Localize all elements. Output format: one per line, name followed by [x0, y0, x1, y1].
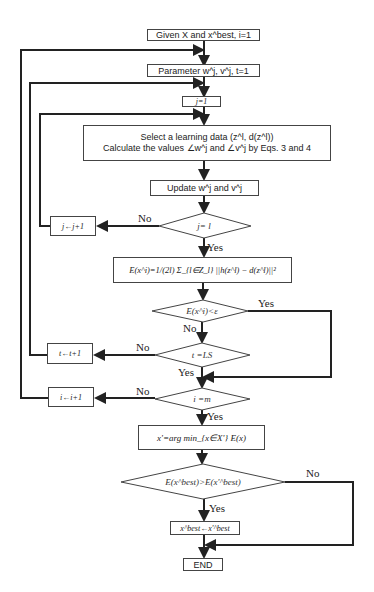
yes-label-t: Yes — [178, 366, 194, 378]
no-label-t: No — [136, 341, 149, 353]
assign-best-box: x^best←x'^best — [170, 521, 240, 535]
argmin-box: x'=arg min_{x∈X'} E(x) — [138, 425, 265, 450]
start-text: Given X and x^best, i=1 — [156, 30, 251, 40]
j-init-text: j=1 — [196, 97, 208, 106]
no-label-j: No — [138, 212, 151, 224]
select-text: Select a learning data (z^l, d(z^l)) — [140, 132, 273, 143]
j-increment-box: j←j+1 — [50, 216, 96, 236]
error-equation-box: E(x^i)=1/(2l) Σ_{l∈Z_l} ||h(z^l) − d(z^l… — [113, 257, 292, 283]
yes-label-j: Yes — [207, 241, 223, 253]
update-text: Update w^j and v^j — [167, 183, 242, 193]
yes-label-error: Yes — [258, 297, 274, 309]
cond-best-text: E(x^best)>E(x'^best) — [165, 477, 241, 487]
select-learning-data-box: Select a learning data (z^l, d(z^l)) Cal… — [83, 125, 331, 161]
cond-j-text: j= l — [197, 221, 210, 231]
calculate-text: Calculate the values ∠w^j and ∠v^j by Eq… — [103, 143, 311, 154]
yes-label-i: Yes — [207, 410, 223, 422]
connector-lines — [0, 0, 374, 592]
yes-label-best: Yes — [209, 502, 225, 514]
start-box: Given X and x^best, i=1 — [147, 29, 260, 41]
end-text: END — [193, 560, 212, 570]
parameter-box: Parameter w^j, v^j, t=1 — [147, 64, 260, 77]
j-increment-text: j←j+1 — [62, 222, 84, 231]
cond-t-text: t =LS — [192, 350, 212, 360]
i-increment-box: i←i+1 — [48, 387, 94, 407]
argmin-text: x'=arg min_{x∈X'} E(x) — [157, 433, 246, 443]
t-increment-text: t←t+1 — [59, 349, 81, 358]
cond-i-text: i =m — [193, 394, 210, 404]
j-init-box: j=1 — [182, 96, 221, 107]
t-increment-box: t←t+1 — [47, 343, 93, 364]
cond-error-text: E(x^i)<ε — [186, 306, 217, 316]
no-label-best: No — [306, 467, 319, 479]
no-label-error: No — [183, 322, 196, 334]
error-equation-text: E(x^i)=1/(2l) Σ_{l∈Z_l} ||h(z^l) − d(z^l… — [129, 265, 275, 275]
parameter-text: Parameter w^j, v^j, t=1 — [158, 66, 249, 76]
no-label-i: No — [136, 385, 149, 397]
end-box: END — [183, 558, 223, 571]
update-box: Update w^j and v^j — [150, 180, 259, 196]
i-increment-text: i←i+1 — [60, 393, 82, 402]
assign-best-text: x^best←x'^best — [180, 524, 229, 533]
